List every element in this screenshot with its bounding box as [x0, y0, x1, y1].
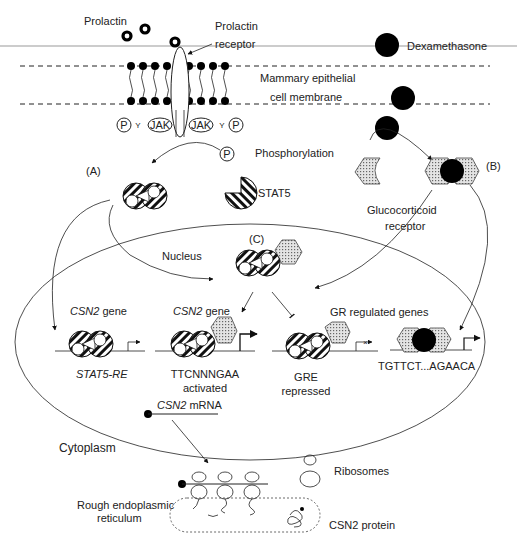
svg-text:Y: Y	[219, 121, 225, 130]
svg-text:P: P	[223, 148, 230, 160]
prolactin-molecule	[171, 38, 179, 46]
svg-text:Y: Y	[135, 121, 141, 130]
polysome	[178, 472, 268, 515]
svg-text:CSN2 mRNA: CSN2 mRNA	[157, 399, 222, 411]
dexamethasone-molecule	[391, 86, 415, 110]
svg-text:reticulum: reticulum	[97, 512, 142, 524]
csn2-protein-label: CSN2 protein	[329, 519, 395, 531]
panel-a-label: (A)	[86, 165, 101, 177]
svg-text:Glucocorticoid: Glucocorticoid	[367, 204, 437, 216]
gr-regulated-genes-label: GR regulated genes	[330, 306, 429, 318]
jak-phospho-left: P Y JAK	[117, 118, 172, 132]
prolactin-label: Prolactin	[84, 15, 127, 27]
stat5-label: STAT5	[258, 187, 291, 199]
glucocorticoid-receptor-bound	[425, 158, 479, 184]
svg-text:TTCNNNGAA: TTCNNNGAA	[171, 368, 240, 380]
panel-b-label: (B)	[486, 160, 501, 172]
dexamethasone-label: Dexamethasone	[407, 40, 487, 52]
prolactin-receptor	[171, 47, 189, 137]
stat5-gr-on-csn2	[171, 331, 215, 357]
svg-text:repressed: repressed	[282, 385, 331, 397]
dexamethasone-molecule	[375, 33, 399, 57]
csn2-signaling-diagram: P Y JAK JAK Y P P Prolactin Prolactin re…	[0, 0, 517, 546]
ribosomes-label: Ribosomes	[334, 465, 390, 477]
svg-text:Mammary epithelial: Mammary epithelial	[260, 72, 355, 84]
svg-text:cell membrane: cell membrane	[270, 91, 342, 103]
svg-text:×: ×	[363, 338, 368, 347]
csn2-gene-label-2: CSN2 gene	[173, 305, 230, 317]
csn2-protein-fold	[288, 510, 303, 527]
ribosome-large-subunit	[300, 471, 320, 487]
stat5-gr-on-gre	[286, 333, 330, 359]
svg-text:Prolactin: Prolactin	[215, 20, 258, 32]
svg-text:P: P	[232, 119, 239, 131]
gr-dexamethasone-complex	[412, 328, 436, 352]
nucleus-label: Nucleus	[162, 250, 202, 262]
stat5-re-label: STAT5-RE	[76, 368, 128, 380]
stat5-dimer-on-re	[69, 331, 113, 357]
dexamethasone-molecule	[375, 116, 399, 140]
svg-text:TGTTCT...AGAACA: TGTTCT...AGAACA	[378, 360, 476, 372]
svg-text:P: P	[120, 119, 127, 131]
jak-phospho-right: JAK Y P	[189, 118, 243, 132]
svg-text:activated: activated	[183, 382, 227, 394]
prolactin-molecule	[123, 32, 131, 40]
phosphorylation-label: Phosphorylation	[255, 147, 334, 159]
svg-text:Rough endoplasmic: Rough endoplasmic	[77, 499, 175, 511]
stat5-dimer-phosphorylated	[123, 183, 167, 209]
svg-text:receptor: receptor	[215, 38, 256, 50]
glucocorticoid-receptor-unbound	[355, 158, 380, 184]
svg-text:GRE: GRE	[294, 371, 318, 383]
stat5-gr-complex	[236, 250, 280, 276]
prolactin-molecule	[141, 25, 149, 33]
svg-text:JAK: JAK	[150, 119, 171, 131]
svg-text:JAK: JAK	[191, 119, 212, 131]
cytoplasm-label: Cytoplasm	[59, 441, 116, 455]
csn2-gene-label-1: CSN2 gene	[70, 305, 127, 317]
panel-c-label: (C)	[249, 233, 264, 245]
stat5-monomer	[225, 177, 257, 209]
